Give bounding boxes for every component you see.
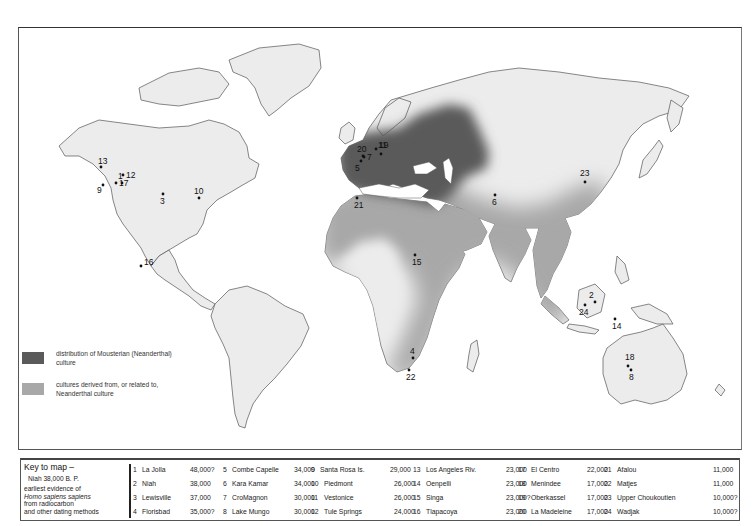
new-zealand-landmass — [715, 384, 725, 396]
site-date: 26,000 — [394, 477, 415, 491]
site-name: Tlapacoya — [426, 505, 506, 519]
site-marker-label: 8 — [629, 372, 634, 382]
central-america-landmass — [151, 250, 215, 310]
site-number: 23 — [604, 491, 617, 505]
site-marker-dot — [140, 265, 143, 268]
key-site-entry: 21Afalou11,000 — [604, 463, 738, 477]
site-name: Los Angeles Riv. — [426, 463, 506, 477]
site-marker-label: 7 — [367, 152, 372, 162]
map-legend: distribution of Mousterian (Neanderthal)… — [22, 350, 222, 412]
site-number: 6 — [223, 477, 232, 491]
site-name: Menindee — [531, 477, 587, 491]
site-name: Afalou — [617, 463, 713, 477]
site-date: 10,000? — [713, 505, 738, 519]
site-number: 5 — [223, 463, 232, 477]
key-site-entry: 14Oenpelli23,000 — [413, 477, 531, 491]
key-divider — [129, 464, 131, 518]
site-number: 12 — [311, 505, 324, 519]
site-number: 15 — [413, 491, 426, 505]
site-number: 21 — [604, 463, 617, 477]
site-number: 22 — [604, 477, 617, 491]
site-name: Lewisville — [142, 491, 190, 505]
key-site-entry: 13Los Angeles Riv.23,000 — [413, 463, 531, 477]
japan-landmass — [639, 140, 663, 178]
site-date: 11,000 — [713, 477, 733, 491]
java-landmass — [567, 324, 599, 334]
site-number: 2 — [133, 477, 142, 491]
legend-label: distribution of Mousterian (Neanderthal)… — [56, 350, 176, 367]
key-site-entry: 7CroMagnon30,000 — [223, 491, 315, 505]
site-name: CroMagnon — [232, 491, 294, 505]
key-site-entry: 2Niah38,000 — [133, 477, 215, 491]
site-marker-label: 21 — [354, 200, 364, 210]
greenland-landmass — [229, 44, 321, 116]
legend-swatch-light — [22, 383, 44, 395]
madagascar-landmass — [467, 340, 479, 372]
site-name: Matjes — [617, 477, 713, 491]
site-name: Lake Mungo — [232, 505, 294, 519]
key-site-entry: 20La Madeleine17,000 — [518, 505, 608, 519]
site-number: 20 — [518, 505, 531, 519]
map-key: Key to map – Niah 38,000 B. P. earliest … — [20, 458, 740, 521]
site-marker-label: 20 — [357, 144, 367, 154]
site-name: Singa — [426, 491, 506, 505]
key-column: 13Los Angeles Riv.23,00014Oenpelli23,000… — [413, 463, 531, 519]
site-marker-label: 18 — [625, 352, 635, 362]
site-marker-dot — [412, 357, 415, 360]
site-marker-label: 9 — [97, 185, 102, 195]
key-site-entry: 15Singa23,000? — [413, 491, 531, 505]
site-number: 13 — [413, 463, 426, 477]
site-date: 26,000 — [394, 491, 415, 505]
site-date: 10,000? — [713, 491, 738, 505]
site-marker-label: 23 — [580, 168, 590, 178]
site-number: 1 — [133, 463, 142, 477]
site-marker-dot — [360, 160, 363, 163]
site-date: 38,000 — [190, 477, 211, 491]
site-name: Vestonice — [324, 491, 394, 505]
site-number: 3 — [133, 491, 142, 505]
site-name: Oberkassel — [531, 491, 587, 505]
key-intro: Key to map – Niah 38,000 B. P. earliest … — [24, 462, 124, 515]
site-marker-dot — [375, 148, 378, 151]
site-name: Upper Choukoutien — [617, 491, 713, 505]
site-name: Florisbad — [142, 505, 190, 519]
key-site-entry: 8Lake Mungo30,000 — [223, 505, 315, 519]
site-marker-dot — [362, 155, 365, 158]
site-marker-label: 22 — [406, 372, 416, 382]
south-america-landmass — [211, 286, 309, 428]
site-name: El Centro — [531, 463, 587, 477]
key-site-entry: 6Kara Kamar34,000 — [223, 477, 315, 491]
britain-landmass — [339, 122, 355, 144]
key-desc-line: and other dating methods — [24, 508, 124, 516]
australia-landmass — [603, 324, 687, 404]
key-site-entry: 17El Centro22,000 — [518, 463, 608, 477]
site-date: 48,000? — [190, 463, 215, 477]
site-name: Piedmont — [324, 477, 394, 491]
site-marker-dot — [356, 197, 359, 200]
site-marker-label: 6 — [492, 197, 497, 207]
site-marker-label: 17 — [119, 178, 129, 188]
key-description: earliest evidence of Homo sapiens sapien… — [24, 485, 124, 515]
key-column: 5Combe Capelle34,0006Kara Kamar34,0007Cr… — [223, 463, 315, 519]
site-marker-label: 15 — [412, 257, 422, 267]
key-desc-line: Homo sapiens sapiens — [24, 493, 124, 501]
site-date: 37,000 — [190, 491, 211, 505]
site-number: 11 — [311, 491, 324, 505]
key-site-entry: 5Combe Capelle34,000 — [223, 463, 315, 477]
key-site-entry: 3Lewisville37,000 — [133, 491, 215, 505]
site-marker-label: 19 — [379, 140, 389, 150]
site-name: Oenpelli — [426, 477, 506, 491]
site-marker-dot — [414, 254, 417, 257]
philippines-landmass — [615, 256, 629, 284]
legend-swatch-dark — [22, 352, 44, 364]
site-marker-dot — [584, 181, 587, 184]
site-name: La Jolla — [142, 463, 190, 477]
site-marker-dot — [102, 184, 105, 187]
north-america-landmass — [59, 120, 259, 266]
site-marker-label: 3 — [160, 196, 165, 206]
key-column: 9Santa Rosa Is.29,00010Piedmont26,00011V… — [311, 463, 415, 519]
site-name: Niah — [142, 477, 190, 491]
site-marker-label: 2 — [589, 290, 594, 300]
site-number: 14 — [413, 477, 426, 491]
site-number: 18 — [518, 477, 531, 491]
